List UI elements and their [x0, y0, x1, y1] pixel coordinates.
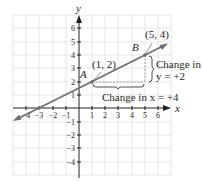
y-tick-label: 4 — [71, 51, 75, 60]
point-a-label: A — [79, 68, 87, 80]
x-tick-label: 3 — [116, 111, 120, 120]
x-tick-label: −3 — [35, 111, 44, 120]
change-y-line1: Change in — [156, 58, 201, 70]
x-tick-labels: −4 −3 −2 −1 1 2 3 4 5 6 — [22, 111, 160, 120]
line-arrow-right-icon — [160, 44, 169, 51]
x-axis-arrow-icon — [163, 105, 171, 111]
y-tick-label: 6 — [71, 24, 75, 33]
y-tick-label: −3 — [66, 144, 75, 153]
change-y-line2: y = +2 — [156, 70, 185, 82]
y-tick-label: −4 — [66, 158, 75, 167]
point-a-coord: (1, 2) — [92, 58, 116, 71]
brace-y — [149, 56, 154, 82]
y-tick-label: 2 — [71, 78, 75, 87]
coordinate-plane: −4 −3 −2 −1 1 2 3 4 5 6 6 5 4 3 2 1 −1 −… — [0, 0, 202, 181]
change-x-label: Change in x = +4 — [102, 91, 179, 103]
x-axis-label: x — [174, 102, 180, 114]
point-b-coord: (5, 4) — [145, 28, 169, 41]
x-tick-label: 5 — [143, 111, 147, 120]
x-tick-label: 1 — [90, 111, 94, 120]
y-tick-label: 5 — [71, 38, 75, 47]
y-tick-label: 3 — [71, 64, 75, 73]
y-axis-arrow-icon — [76, 15, 82, 23]
y-axis-label: y — [75, 2, 81, 14]
y-tick-label: −1 — [66, 118, 75, 127]
x-tick-label: −2 — [49, 111, 58, 120]
x-tick-label: 2 — [103, 111, 107, 120]
x-tick-label: 6 — [156, 111, 160, 120]
x-tick-label: 4 — [130, 111, 134, 120]
line-arrow-left-icon — [13, 115, 22, 122]
point-b-label: B — [132, 41, 139, 53]
y-tick-label: −2 — [66, 131, 75, 140]
